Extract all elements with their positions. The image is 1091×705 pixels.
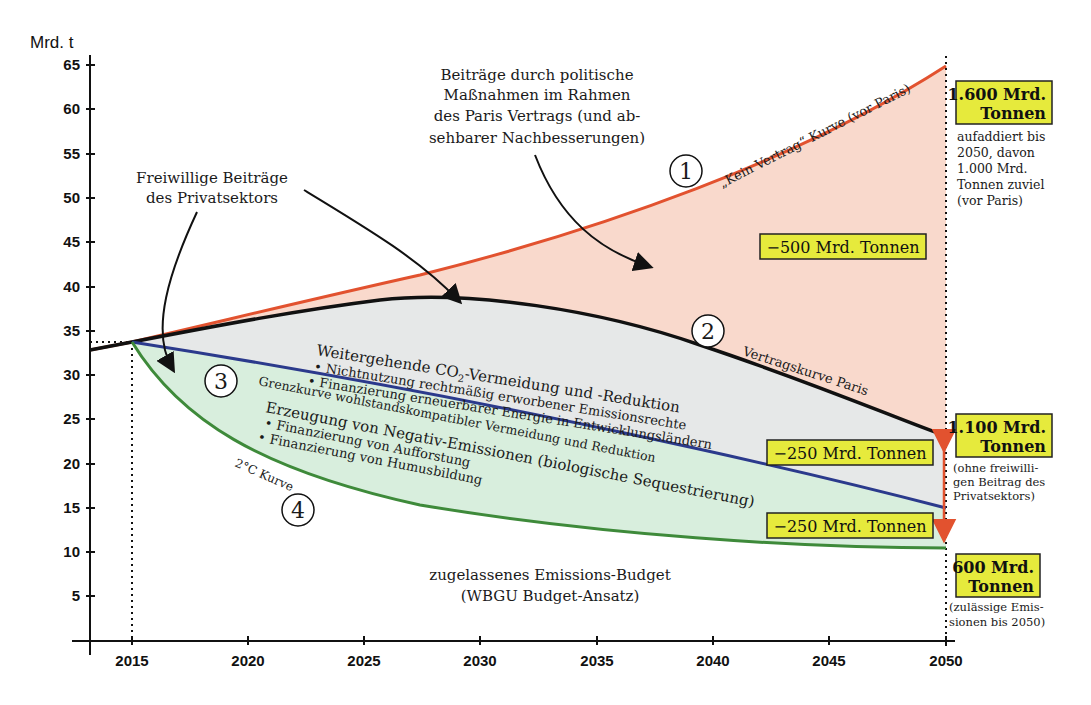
svg-text:30: 30 [63, 366, 80, 383]
svg-text:2030: 2030 [463, 652, 496, 669]
svg-text:20: 20 [63, 455, 80, 472]
box-1600: 1.600 Mrd. Tonnen [947, 81, 1052, 124]
note-600: (zulässige Emis- sionen bis 2050) [949, 600, 1045, 629]
svg-text:1: 1 [679, 159, 693, 184]
box-1100: 1.100 Mrd. Tonnen [947, 414, 1052, 457]
svg-text:2040: 2040 [696, 652, 729, 669]
svg-text:40: 40 [63, 278, 80, 295]
svg-text:1.600 Mrd.: 1.600 Mrd. [947, 85, 1046, 104]
svg-text:2050: 2050 [929, 652, 962, 669]
svg-text:45: 45 [63, 233, 80, 250]
svg-text:35: 35 [63, 322, 80, 339]
marker-1: 1 [670, 155, 702, 187]
svg-text:Freiwillige Beiträge: Freiwillige Beiträge [136, 169, 288, 187]
svg-text:1.100 Mrd.: 1.100 Mrd. [947, 418, 1046, 437]
annotation-private: Freiwillige Beiträge des Privatsektors [136, 169, 288, 207]
svg-text:(WBGU Budget-Ansatz): (WBGU Budget-Ansatz) [461, 587, 640, 605]
svg-text:sehbarer Nachbesserungen): sehbarer Nachbesserungen) [429, 129, 645, 147]
svg-text:2035: 2035 [580, 652, 613, 669]
svg-text:Tonnen: Tonnen [980, 437, 1046, 456]
marker-3: 3 [205, 365, 237, 397]
svg-text:1.000 Mrd.: 1.000 Mrd. [957, 161, 1028, 176]
svg-text:zugelassenes Emissions-Budget: zugelassenes Emissions-Budget [429, 566, 670, 584]
note-1600: aufaddiert bis 2050, davon 1.000 Mrd. To… [957, 129, 1045, 208]
svg-text:2045: 2045 [812, 652, 845, 669]
box-600: 600 Mrd. Tonnen [952, 554, 1040, 597]
svg-text:4: 4 [291, 498, 305, 523]
y-axis-label: Mrd. t [30, 33, 74, 52]
svg-text:Tonnen zuviel: Tonnen zuviel [957, 177, 1045, 192]
svg-text:3: 3 [214, 369, 228, 394]
svg-text:25: 25 [63, 410, 80, 427]
svg-text:Privatsektors): Privatsektors) [953, 489, 1035, 503]
svg-text:50: 50 [63, 189, 80, 206]
svg-text:gen Beitrag des: gen Beitrag des [953, 475, 1045, 489]
svg-text:65: 65 [63, 56, 80, 73]
svg-text:(ohne freiwilli-: (ohne freiwilli- [953, 461, 1038, 475]
svg-text:−250 Mrd. Tonnen: −250 Mrd. Tonnen [774, 517, 927, 536]
svg-text:15: 15 [63, 499, 80, 516]
svg-text:600 Mrd.: 600 Mrd. [952, 558, 1034, 577]
note-1100: (ohne freiwilli- gen Beitrag des Privats… [953, 461, 1045, 503]
box-minus250-green: −250 Mrd. Tonnen [767, 513, 933, 538]
svg-text:(zulässige Emis-: (zulässige Emis- [949, 600, 1044, 614]
marker-2: 2 [692, 315, 724, 347]
svg-text:Maßnahmen im Rahmen: Maßnahmen im Rahmen [444, 86, 631, 104]
svg-text:−250 Mrd. Tonnen: −250 Mrd. Tonnen [774, 444, 927, 463]
annotation-budget: zugelassenes Emissions-Budget (WBGU Budg… [429, 566, 670, 605]
svg-text:sionen bis 2050): sionen bis 2050) [949, 615, 1045, 629]
svg-text:des Paris Vertrags (und ab-: des Paris Vertrags (und ab- [434, 107, 641, 125]
svg-text:55: 55 [63, 145, 80, 162]
svg-text:60: 60 [63, 100, 80, 117]
marker-4: 4 [282, 494, 314, 526]
emissions-chart: Mrd. t 65 60 55 50 45 40 35 30 25 20 15 … [0, 0, 1091, 705]
box-minus250-grey: −250 Mrd. Tonnen [767, 440, 933, 465]
svg-text:−500 Mrd. Tonnen: −500 Mrd. Tonnen [767, 238, 920, 257]
svg-text:10: 10 [63, 543, 80, 560]
svg-text:aufaddiert bis: aufaddiert bis [957, 129, 1045, 144]
svg-text:2020: 2020 [231, 652, 264, 669]
annotation-paris: Beiträge durch politische Maßnahmen im R… [429, 66, 645, 147]
svg-text:2: 2 [701, 319, 715, 344]
svg-text:Tonnen: Tonnen [980, 104, 1046, 123]
svg-text:2050, davon: 2050, davon [957, 145, 1035, 160]
box-minus500: −500 Mrd. Tonnen [760, 234, 926, 259]
svg-text:2025: 2025 [347, 652, 380, 669]
svg-text:Tonnen: Tonnen [968, 577, 1034, 596]
svg-text:Beiträge durch politische: Beiträge durch politische [440, 66, 633, 84]
svg-text:(vor Paris): (vor Paris) [957, 193, 1023, 208]
svg-text:2015: 2015 [115, 652, 148, 669]
svg-text:des Privatsektors: des Privatsektors [146, 189, 278, 207]
svg-text:5: 5 [72, 587, 80, 604]
